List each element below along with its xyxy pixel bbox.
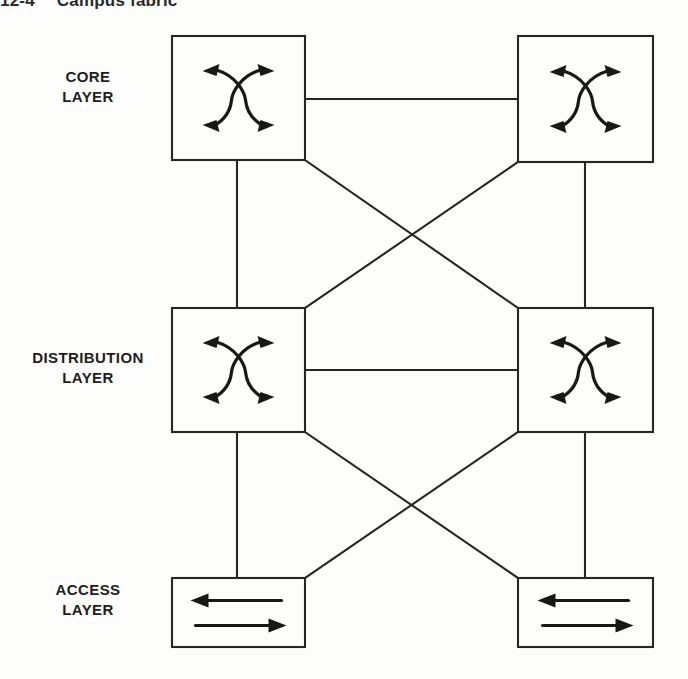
node-box-distribution-right: [518, 308, 653, 432]
node-box-core-right: [518, 36, 653, 162]
node-box-access-left: [172, 578, 305, 647]
node-access-left[interactable]: [172, 578, 305, 647]
campus-fabric-figure: 12-4Campus fabric CORE LAYER DISTRIBUTIO…: [0, 0, 688, 679]
node-core-right[interactable]: [518, 36, 653, 162]
nodes-group: [172, 36, 653, 647]
node-distribution-right[interactable]: [518, 308, 653, 432]
node-access-right[interactable]: [518, 578, 653, 647]
node-box-access-right: [518, 578, 653, 647]
node-box-distribution-left: [172, 308, 305, 432]
network-topology-canvas: [0, 0, 688, 679]
node-box-core-left: [172, 36, 305, 160]
node-core-left[interactable]: [172, 36, 305, 160]
node-distribution-left[interactable]: [172, 308, 305, 432]
